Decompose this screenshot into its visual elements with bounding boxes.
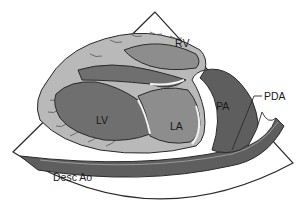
label-desc-ao: Desc Ao (53, 171, 92, 183)
heart-sector-diagram: RV LV LA PA PDA Desc Ao (0, 0, 306, 215)
label-lv: LV (96, 114, 108, 126)
label-pa: PA (216, 100, 229, 112)
label-pda: PDA (264, 90, 286, 102)
label-rv: RV (175, 37, 189, 49)
label-la: LA (170, 120, 183, 132)
